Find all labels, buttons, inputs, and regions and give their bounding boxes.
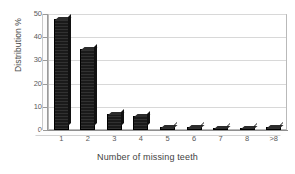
x-axis-line [47, 130, 288, 131]
bar-side-face [121, 109, 124, 126]
bar [187, 127, 202, 130]
x-tick-label: 4 [128, 134, 154, 143]
x-tick-label: 1 [48, 134, 74, 143]
y-tick-mark [43, 107, 48, 108]
x-axis-title: Number of missing teeth [0, 152, 295, 162]
x-tick-label: 7 [208, 134, 234, 143]
x-tick-label: 3 [101, 134, 127, 143]
bar [133, 116, 148, 130]
y-tick-mark [43, 130, 48, 131]
y-tick-mark [43, 37, 48, 38]
bar [160, 127, 175, 130]
x-axis-tick-labels: 12345678>8 [48, 134, 287, 148]
bar [213, 128, 228, 131]
y-tick-mark [43, 14, 48, 15]
x-tick-label: >8 [261, 134, 287, 143]
x-tick-label: 6 [181, 134, 207, 143]
bar-side-face [68, 14, 71, 126]
x-tick-label: 8 [234, 134, 260, 143]
y-axis-tick-labels: 01020304050 [20, 0, 42, 174]
bar [107, 114, 122, 130]
bar-side-face [147, 111, 150, 126]
bar-top-face [241, 126, 258, 129]
y-tick-label: 30 [20, 56, 42, 64]
bar-side-face [94, 44, 97, 126]
x-tick-label: 5 [155, 134, 181, 143]
bar [240, 128, 255, 131]
y-tick-label: 50 [20, 10, 42, 18]
y-tick-label: 20 [20, 80, 42, 88]
y-tick-label: 40 [20, 33, 42, 41]
y-tick-mark [43, 60, 48, 61]
bar-top-face [214, 126, 231, 129]
bar [80, 49, 95, 130]
x-tick-label: 2 [75, 134, 101, 143]
bar-series [48, 14, 287, 130]
y-tick-label: 10 [20, 103, 42, 111]
bar [266, 127, 281, 130]
bar-chart: Distribution % 01020304050 12345678>8 Nu… [0, 0, 295, 174]
y-tick-mark [43, 84, 48, 85]
bar [54, 19, 69, 130]
